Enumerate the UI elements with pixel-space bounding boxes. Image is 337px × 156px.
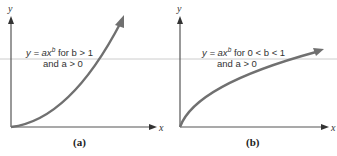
panel-b: y x y = axb for 0 < b < 1 and a > 0 (b) — [176, 3, 336, 149]
caption-b: (b) — [246, 136, 260, 149]
curve-arrow-icon — [313, 48, 324, 56]
panel-a: y x y = axb for b > 1 and a > 0 (a) — [7, 3, 164, 149]
curve-a — [11, 22, 121, 127]
x-axis-label-b: x — [330, 122, 336, 133]
y-axis-label-b: y — [176, 3, 182, 14]
x-axis-label-a: x — [158, 122, 164, 133]
equation-b-line2: and a > 0 — [217, 58, 257, 69]
equation-b-line1: y = axb for 0 < b < 1 — [201, 46, 285, 58]
y-axis-label-a: y — [7, 3, 13, 14]
equation-a-line1: y = axb for b > 1 — [25, 46, 93, 58]
y-axis-arrow-icon — [8, 16, 14, 24]
x-axis-arrow-icon — [321, 124, 329, 130]
curve-arrow-icon — [115, 15, 124, 28]
equation-a-line2: and a > 0 — [43, 58, 83, 69]
x-axis-arrow-icon — [149, 124, 157, 130]
y-axis-arrow-icon — [177, 16, 183, 24]
power-function-diagram: y x y = axb for b > 1 and a > 0 (a) y x … — [0, 0, 337, 156]
caption-a: (a) — [73, 136, 86, 149]
